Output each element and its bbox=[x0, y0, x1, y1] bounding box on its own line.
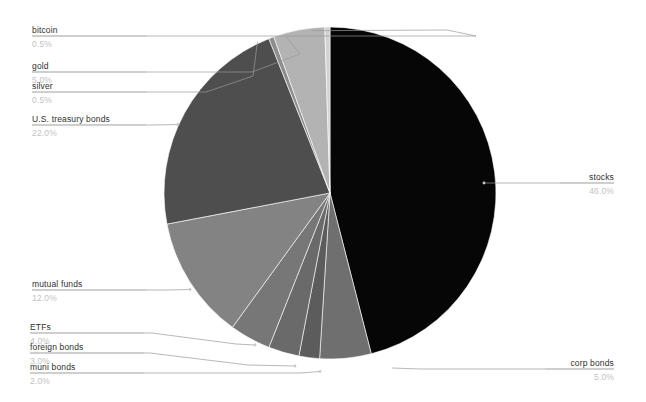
pie-slices bbox=[164, 27, 496, 359]
pie-label-muni-bonds[interactable]: muni bonds 2.0% bbox=[30, 362, 75, 386]
pie-label-bitcoin-pct: 0.5% bbox=[32, 39, 52, 49]
pie-label-silver[interactable]: silver 0.5% bbox=[32, 81, 53, 105]
tick-dot-mutual bbox=[189, 288, 192, 291]
pie-label-mutual-name: mutual funds bbox=[32, 279, 82, 289]
pie-label-stocks[interactable]: stocks 46.0% bbox=[589, 172, 614, 196]
pie-label-mutual-funds[interactable]: mutual funds 12.0% bbox=[32, 279, 82, 303]
pie-label-corp-name: corp bonds bbox=[570, 358, 614, 368]
pie-label-corp-bonds[interactable]: corp bonds 5.0% bbox=[570, 358, 614, 382]
pie-label-corp-pct: 5.0% bbox=[594, 372, 614, 382]
pie-label-us-treasury-bonds[interactable]: U.S. treasury bonds 22.0% bbox=[32, 114, 110, 138]
pie-label-muni-pct: 2.0% bbox=[30, 376, 50, 386]
tick-dot-muni bbox=[319, 370, 322, 373]
pie-label-mutual-pct: 12.0% bbox=[32, 293, 57, 303]
pie-label-muni-name: muni bonds bbox=[30, 362, 75, 372]
pie-label-silver-pct: 0.5% bbox=[32, 95, 52, 105]
pie-label-stocks-pct: 46.0% bbox=[589, 186, 614, 196]
tick-dot-foreign bbox=[294, 365, 297, 368]
pie-label-treasury-pct: 22.0% bbox=[32, 128, 57, 138]
pie-label-stocks-name: stocks bbox=[589, 172, 614, 182]
tick-dot-stocks bbox=[483, 182, 486, 185]
pie-chart-figure: bitcoin 0.5% gold 5.0% silver 0.5% U.S. … bbox=[0, 0, 646, 402]
pie-label-foreign-name: foreign bonds bbox=[30, 342, 83, 352]
pie-label-gold-name: gold bbox=[32, 61, 49, 71]
pie-label-bitcoin[interactable]: bitcoin 0.5% bbox=[32, 25, 58, 49]
pie-label-treasury-name: U.S. treasury bonds bbox=[32, 114, 110, 124]
leader-line-bitcoin bbox=[32, 30, 476, 36]
pie-chart-svg: bitcoin 0.5% gold 5.0% silver 0.5% U.S. … bbox=[0, 0, 646, 402]
tick-dot-etfs bbox=[254, 344, 257, 347]
pie-label-bitcoin-name: bitcoin bbox=[32, 25, 58, 35]
pie-label-etfs-name: ETFs bbox=[30, 322, 51, 332]
pie-label-silver-name: silver bbox=[32, 81, 53, 91]
tick-dot-treasury bbox=[177, 123, 180, 126]
